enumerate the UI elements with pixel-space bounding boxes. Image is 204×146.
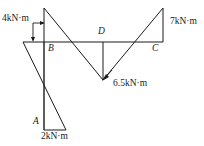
node-label-a: A [33, 117, 39, 127]
moment-label-mid: 6.5kN·m [113, 79, 147, 89]
bending-moment-figure: 4kN·m 7kN·m 6.5kN·m 2kN·m A B C D [0, 0, 204, 146]
node-label-d: D [98, 27, 105, 37]
moment-label-right: 7kN·m [170, 17, 197, 27]
node-label-b: B [48, 44, 54, 54]
arrowhead-down-4kn [31, 37, 35, 42]
moment-label-left: 4kN·m [2, 14, 29, 24]
node-label-c: C [152, 44, 158, 54]
moment-label-bottom: 2kN·m [41, 132, 68, 142]
